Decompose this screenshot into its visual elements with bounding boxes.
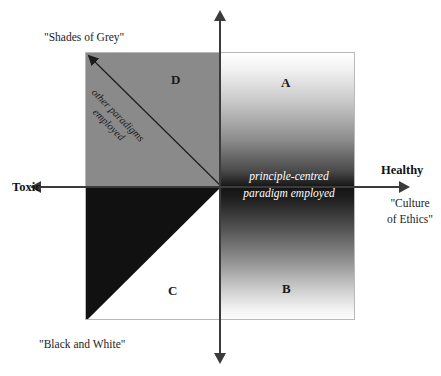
vertical-axis [219, 16, 221, 360]
caption-centre-line1: principle-centred [228, 168, 350, 185]
quadrant-letter-b: B [282, 282, 291, 295]
axis-label-shades-of-grey: "Shades of Grey" [44, 30, 124, 46]
arrow-up-icon [214, 10, 226, 21]
axis-label-toxic: Toxic [12, 180, 41, 195]
quadrant-lower-left [86, 187, 221, 320]
quadrant-diagram: A B C D other paradigms employed princip… [0, 0, 441, 376]
arrow-down-icon [214, 353, 226, 364]
quadrant-letter-a: A [281, 76, 290, 89]
caption-principle-centred-centre: principle-centred paradigm employed [228, 168, 350, 201]
quadrant-letter-d: D [171, 73, 180, 86]
quadrant-letter-c: C [168, 284, 177, 297]
arrow-right-icon [399, 181, 410, 193]
axis-label-black-and-white: "Black and White" [39, 337, 125, 353]
caption-centre-line2: paradigm employed [228, 185, 350, 202]
axis-label-healthy: Healthy [381, 163, 423, 178]
axis-sublabel-culture-of-ethics: "Cultureof Ethics" [381, 196, 439, 227]
black-triangle [86, 187, 221, 320]
